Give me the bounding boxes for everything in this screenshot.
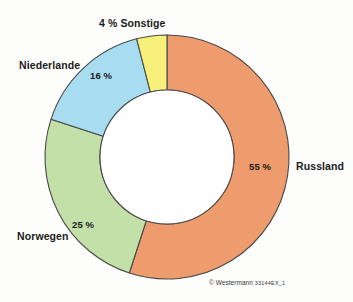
slice-label-niederlande: Niederlande: [19, 60, 80, 71]
slice-label-norwegen: Norwegen: [17, 231, 69, 242]
donut-chart-figure: 4 % Sonstige Niederlande 16 % Norwegen 2…: [0, 0, 353, 302]
slice-label-sonstige: 4 % Sonstige: [99, 18, 166, 29]
copyright-code: 33144EX_1: [255, 280, 286, 286]
donut-chart-svg: [0, 0, 353, 302]
slice-value-russland: 55 %: [249, 162, 271, 172]
copyright-notice: © Westermann 33144EX_1: [209, 279, 285, 286]
copyright-text: © Westermann: [209, 279, 253, 286]
slice-value-niederlande: 16 %: [90, 71, 112, 81]
slice-label-russland: Russland: [296, 161, 344, 172]
slice-value-norwegen: 25 %: [72, 220, 94, 230]
donut-hole: [100, 90, 234, 224]
